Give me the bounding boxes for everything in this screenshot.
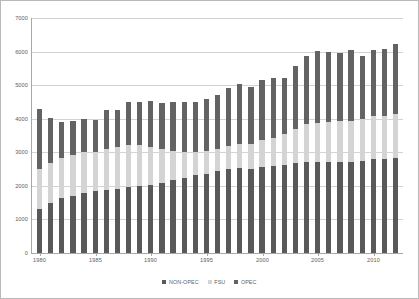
bar-segment-non-opec: [215, 171, 220, 253]
x-axis-tick-label: 2005: [311, 257, 324, 263]
x-axis-tick-label: 2000: [256, 257, 269, 263]
bar-segment-opec: [259, 80, 264, 141]
bar-segment-non-opec: [315, 162, 320, 253]
bar-column[interactable]: [268, 18, 279, 253]
bar-column[interactable]: [357, 18, 368, 253]
x-axis-tick-mark: [207, 253, 208, 256]
bar-column[interactable]: [156, 18, 167, 253]
bar-column[interactable]: [323, 18, 334, 253]
bar-column[interactable]: [45, 18, 56, 253]
bar-segment-non-opec: [126, 187, 131, 253]
bar-segment-fsu: [248, 144, 253, 169]
bar-column[interactable]: [123, 18, 134, 253]
x-axis-tick-label: 2010: [367, 257, 380, 263]
bar-segment-fsu: [348, 121, 353, 162]
bar-segment-non-opec: [326, 162, 331, 253]
bar-segment-opec: [204, 99, 209, 151]
bar-column[interactable]: [201, 18, 212, 253]
bar-column[interactable]: [346, 18, 357, 253]
bar-column[interactable]: [179, 18, 190, 253]
x-axis-tick-label: 1990: [144, 257, 157, 263]
bar-segment-non-opec: [337, 162, 342, 253]
bar-column[interactable]: [279, 18, 290, 253]
bar-stack: [81, 119, 86, 254]
bar-column[interactable]: [390, 18, 401, 253]
legend-swatch-icon: [162, 280, 166, 284]
bar-column[interactable]: [234, 18, 245, 253]
bar-segment-non-opec: [182, 178, 187, 253]
bar-stack: [393, 44, 398, 253]
bar-segment-non-opec: [59, 198, 64, 253]
bar-column[interactable]: [379, 18, 390, 253]
bar-segment-opec: [48, 118, 53, 163]
legend-item-fsu[interactable]: FSU: [208, 279, 226, 285]
x-axis-tick-mark: [96, 253, 97, 256]
bar-segment-opec: [271, 78, 276, 137]
bar-column[interactable]: [334, 18, 345, 253]
bar-stack: [182, 102, 187, 253]
bar-segment-opec: [337, 53, 342, 121]
bar-stack: [193, 102, 198, 253]
bar-column[interactable]: [145, 18, 156, 253]
bar-segment-fsu: [371, 116, 376, 159]
bar-column[interactable]: [56, 18, 67, 253]
bar-segment-opec: [159, 103, 164, 149]
legend-item-non-opec[interactable]: NON-OPEC: [162, 279, 198, 285]
bar-segment-fsu: [93, 152, 98, 191]
bar-segment-non-opec: [282, 165, 287, 253]
bar-segment-opec: [59, 122, 64, 158]
bar-segment-fsu: [304, 124, 309, 161]
bar-segment-non-opec: [70, 196, 75, 253]
bar-segment-opec: [237, 84, 242, 144]
bar-column[interactable]: [112, 18, 123, 253]
bar-segment-opec: [93, 120, 98, 152]
bar-segment-fsu: [326, 122, 331, 162]
bar-column[interactable]: [257, 18, 268, 253]
bar-segment-non-opec: [81, 193, 86, 253]
bar-column[interactable]: [90, 18, 101, 253]
bar-column[interactable]: [368, 18, 379, 253]
bar-segment-opec: [70, 121, 75, 155]
bar-segment-opec: [170, 102, 175, 151]
bar-segment-non-opec: [237, 168, 242, 253]
bar-column[interactable]: [34, 18, 45, 253]
bar-column[interactable]: [101, 18, 112, 253]
bar-segment-opec: [193, 102, 198, 152]
bar-stack: [48, 118, 53, 253]
bar-stack: [337, 53, 342, 253]
x-axis-tick-mark: [40, 253, 41, 256]
bar-stack: [70, 121, 75, 253]
legend-item-opec[interactable]: OPEC: [234, 279, 256, 285]
bar-column[interactable]: [223, 18, 234, 253]
bar-column[interactable]: [134, 18, 145, 253]
bar-column[interactable]: [190, 18, 201, 253]
x-axis-tick-mark: [151, 253, 152, 256]
bar-segment-opec: [81, 119, 86, 153]
bar-segment-opec: [348, 50, 353, 120]
bar-segment-opec: [315, 51, 320, 122]
bar-segment-non-opec: [137, 186, 142, 253]
bar-column[interactable]: [67, 18, 78, 253]
bar-segment-non-opec: [204, 174, 209, 253]
bar-segment-fsu: [170, 151, 175, 180]
bar-segment-fsu: [271, 138, 276, 166]
bar-segment-fsu: [259, 140, 264, 166]
legend-label: OPEC: [241, 279, 257, 285]
bar-column[interactable]: [168, 18, 179, 253]
bar-column[interactable]: [245, 18, 256, 253]
x-axis-tick-label: 1995: [200, 257, 213, 263]
bar-segment-opec: [215, 95, 220, 149]
bar-stack: [259, 80, 264, 253]
bar-segment-fsu: [59, 158, 64, 198]
bar-column[interactable]: [290, 18, 301, 253]
bar-column[interactable]: [79, 18, 90, 253]
bar-column[interactable]: [312, 18, 323, 253]
bar-segment-non-opec: [93, 191, 98, 253]
bar-column[interactable]: [301, 18, 312, 253]
bar-segment-non-opec: [360, 161, 365, 253]
bar-segment-non-opec: [248, 169, 253, 253]
bar-column[interactable]: [212, 18, 223, 253]
bar-segment-fsu: [293, 129, 298, 163]
bar-segment-fsu: [159, 149, 164, 183]
bar-segment-fsu: [81, 152, 86, 192]
